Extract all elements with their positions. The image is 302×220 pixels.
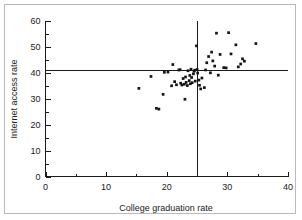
y-tick-label: 40	[30, 68, 40, 78]
y-tick-label: 0	[35, 172, 40, 182]
y-tick-label: 30	[30, 94, 40, 104]
x-axis-ticks	[47, 172, 289, 177]
chart-canvas: 010203040 0102030405060 College graduati…	[0, 0, 302, 220]
x-tick-label: 0	[43, 182, 48, 192]
data-point	[211, 60, 214, 63]
data-point	[225, 67, 228, 70]
data-point	[199, 88, 202, 91]
data-point	[184, 98, 187, 101]
data-point	[207, 55, 210, 58]
data-point	[184, 76, 187, 79]
x-tick-label: 10	[101, 182, 111, 192]
data-point	[210, 51, 213, 54]
data-point	[190, 76, 193, 79]
data-point	[187, 69, 190, 72]
data-point	[167, 71, 170, 74]
data-point	[201, 77, 204, 80]
y-tick-labels: 0102030405060	[30, 16, 40, 182]
data-point	[227, 31, 230, 34]
data-point	[186, 84, 189, 87]
data-point	[150, 75, 153, 78]
data-point	[196, 68, 199, 71]
data-point	[163, 71, 166, 74]
x-tick-label: 30	[222, 182, 232, 192]
data-point	[173, 80, 176, 83]
data-point	[237, 66, 240, 69]
data-point	[235, 43, 238, 46]
data-point	[192, 73, 195, 76]
data-point	[195, 45, 198, 48]
data-point	[222, 66, 225, 69]
axes-group	[45, 21, 288, 177]
data-point	[193, 69, 196, 72]
data-point	[255, 42, 258, 45]
data-point	[191, 81, 194, 84]
data-point	[204, 69, 207, 72]
y-axis-title: Internet access rate	[9, 59, 19, 138]
y-tick-label: 60	[30, 16, 40, 26]
data-point	[230, 53, 233, 56]
data-point	[179, 68, 182, 71]
y-tick-label: 10	[30, 146, 40, 156]
y-tick-label: 20	[30, 120, 40, 130]
x-tick-labels: 010203040	[43, 182, 293, 192]
data-point	[155, 107, 158, 110]
data-point	[217, 74, 220, 77]
data-point	[209, 71, 212, 74]
data-point	[213, 65, 216, 68]
data-point	[162, 93, 165, 96]
data-point	[198, 79, 201, 82]
data-point	[215, 32, 218, 35]
y-axis-ticks	[46, 22, 51, 178]
data-point	[203, 86, 206, 89]
reference-lines	[46, 21, 289, 177]
data-point	[188, 79, 191, 82]
data-point	[219, 53, 222, 56]
scatter-chart: 010203040 0102030405060 College graduati…	[0, 0, 302, 220]
data-point	[138, 87, 141, 90]
y-tick-label: 50	[30, 42, 40, 52]
data-point	[175, 83, 178, 86]
data-point	[239, 63, 242, 66]
x-tick-label: 40	[283, 182, 293, 192]
x-axis-title: College graduation rate	[119, 203, 213, 213]
data-point	[171, 63, 174, 66]
data-point	[196, 72, 199, 75]
data-point	[205, 61, 208, 64]
data-point	[158, 108, 161, 111]
data-point	[170, 84, 173, 87]
data-point	[190, 68, 193, 71]
data-point	[243, 60, 246, 63]
data-point	[181, 84, 184, 87]
data-point	[198, 84, 201, 87]
data-point	[194, 80, 197, 83]
data-point	[182, 77, 185, 80]
data-point	[241, 57, 244, 60]
x-tick-label: 20	[162, 182, 172, 192]
data-point	[185, 81, 188, 84]
